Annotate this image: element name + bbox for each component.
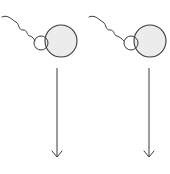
egg-cell-icon [134,25,166,57]
down-arrow-icon [52,68,62,157]
sperm-tail-icon [2,16,35,41]
down-arrow-icon [144,68,154,157]
egg-cell-icon [45,25,77,57]
panel-left [2,16,77,157]
panel-right [89,16,166,157]
diagram-canvas [0,0,170,174]
fertilization-diagram [0,0,170,174]
sperm-tail-icon [89,16,124,41]
